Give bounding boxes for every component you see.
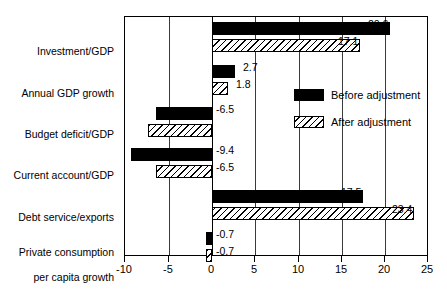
bar-current-account-after bbox=[156, 165, 212, 178]
xtick-10 bbox=[298, 256, 299, 262]
bar-current-account-before bbox=[131, 148, 212, 161]
legend-swatch-before-icon bbox=[294, 89, 324, 101]
xtick-15 bbox=[341, 256, 342, 262]
value-label-debt-after: 23.4 bbox=[392, 203, 412, 216]
xlabel-25: 25 bbox=[407, 263, 447, 275]
y-label-budget-deficit: Budget deficit/GDP bbox=[25, 115, 114, 140]
xtick-5 bbox=[254, 256, 255, 262]
y-label-debt-service: Debt service/exports bbox=[18, 198, 114, 223]
value-label-consumption-after: -0.7 bbox=[216, 245, 234, 258]
bar-budget-deficit-after bbox=[148, 124, 212, 137]
legend-item-before: Before adjustment bbox=[294, 87, 430, 105]
xlabel-0: 0 bbox=[191, 263, 231, 275]
value-label-current-after: -6.5 bbox=[216, 161, 234, 174]
bar-chart: Investment/GDP Annual GDP growth Budget … bbox=[0, 0, 447, 294]
y-axis-labels: Investment/GDP Annual GDP growth Budget … bbox=[0, 16, 118, 256]
value-label-gdp-growth-after: 1.8 bbox=[236, 78, 251, 91]
xtick-0 bbox=[211, 256, 212, 262]
y-label-budget-deficit-text: Budget deficit/GDP bbox=[25, 128, 114, 140]
value-label-current-before: -9.4 bbox=[216, 144, 234, 157]
xlabel-10: 10 bbox=[278, 263, 318, 275]
xtick--5 bbox=[168, 256, 169, 262]
xlabel-20: 20 bbox=[364, 263, 404, 275]
value-label-investment-before: 20.6 bbox=[368, 18, 388, 31]
y-label-investment: Investment/GDP bbox=[37, 32, 114, 57]
bar-gdp-growth-before bbox=[212, 65, 235, 78]
legend-item-after: After adjustment bbox=[294, 114, 430, 132]
plot-area: Before adjustment After adjustment bbox=[124, 16, 428, 256]
legend-swatch-after-icon bbox=[294, 116, 324, 128]
y-label-private-consumption: Private consumption per capita growth bbox=[19, 233, 114, 294]
value-label-investment-after: 17.1 bbox=[338, 35, 358, 48]
legend-label-before: Before adjustment bbox=[331, 89, 420, 102]
xtick-20 bbox=[384, 256, 385, 262]
bar-investment-before bbox=[212, 22, 390, 35]
legend: Before adjustment After adjustment bbox=[294, 87, 430, 141]
legend-label-after: After adjustment bbox=[331, 116, 411, 129]
y-label-gdp-growth-text: Annual GDP growth bbox=[21, 87, 114, 99]
value-label-consumption-before: -0.7 bbox=[216, 228, 234, 241]
xlabel--5: -5 bbox=[148, 263, 188, 275]
bar-gdp-growth-after bbox=[212, 82, 228, 95]
xtick-25 bbox=[427, 256, 428, 262]
value-label-debt-before: 17.5 bbox=[341, 186, 361, 199]
y-label-debt-service-text: Debt service/exports bbox=[18, 211, 114, 223]
y-label-current-account-text: Current account/GDP bbox=[14, 169, 114, 181]
bar-budget-deficit-before bbox=[156, 107, 212, 120]
value-label-gdp-growth-before: 2.7 bbox=[243, 61, 258, 74]
xtick--10 bbox=[124, 256, 125, 262]
y-label-current-account: Current account/GDP bbox=[14, 156, 114, 181]
bar-debt-service-after bbox=[212, 207, 414, 220]
y-label-private-consumption-line2: per capita growth bbox=[19, 271, 114, 284]
xlabel--10: -10 bbox=[104, 263, 144, 275]
bar-private-consumption-before bbox=[206, 232, 212, 245]
xlabel-5: 5 bbox=[234, 263, 274, 275]
value-label-budget-before: -6.5 bbox=[216, 103, 234, 116]
y-label-private-consumption-line1: Private consumption bbox=[19, 246, 114, 259]
y-label-investment-text: Investment/GDP bbox=[37, 45, 114, 57]
xlabel-15: 15 bbox=[321, 263, 361, 275]
y-label-gdp-growth: Annual GDP growth bbox=[21, 74, 114, 99]
